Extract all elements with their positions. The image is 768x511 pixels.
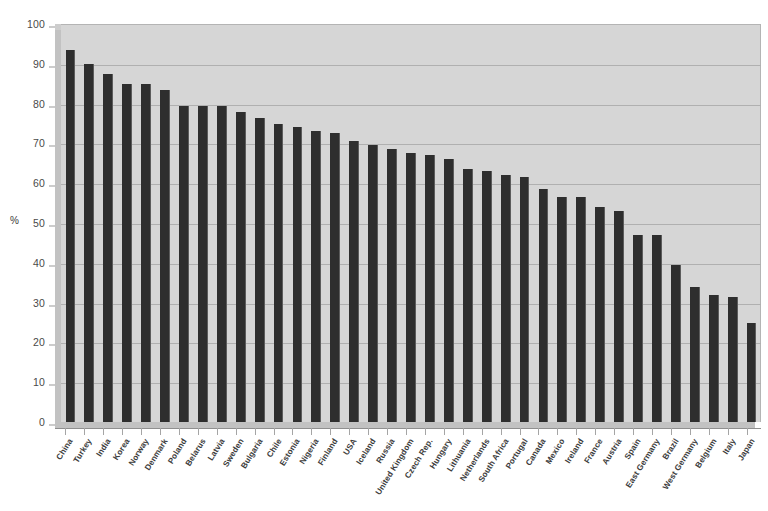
x-axis-tick-mark	[576, 428, 577, 435]
x-axis-tick-label-text: Japan	[736, 437, 756, 462]
x-axis-tick-mark	[292, 428, 293, 435]
x-axis-tick-label: Turkey	[72, 437, 94, 465]
bar	[217, 106, 227, 422]
y-axis-tick-mark	[49, 385, 55, 386]
x-axis-tick-label-text: USA	[342, 437, 359, 457]
x-axis-tick-mark	[274, 428, 275, 435]
x-axis-tick-label: Brazil	[661, 437, 681, 461]
bars-layer	[61, 24, 761, 422]
bar	[198, 106, 208, 422]
y-axis-tick-label: 0	[19, 416, 45, 428]
x-axis-tick-label: Chile	[265, 437, 284, 459]
bar	[66, 50, 76, 422]
x-axis-tick-mark	[614, 428, 615, 435]
y-axis-tick-label: 10	[19, 376, 45, 388]
bar-chart: % 0102030405060708090100 ChinaTurkeyIndi…	[0, 0, 768, 511]
y-axis-tick-mark	[49, 106, 55, 107]
x-axis-tick-mark	[406, 428, 407, 435]
bar	[349, 141, 359, 422]
bar	[444, 159, 454, 422]
y-axis-tick-label: 100	[19, 18, 45, 30]
y-axis-tick-labels: 0102030405060708090100	[5, 0, 45, 511]
x-axis-tick-mark	[747, 428, 748, 435]
x-axis-tick-mark	[520, 428, 521, 435]
bar	[463, 169, 473, 422]
x-axis-tick-mark	[349, 428, 350, 435]
bar	[539, 189, 549, 422]
x-axis-tick-mark	[330, 428, 331, 435]
bar	[274, 124, 284, 423]
y-axis-tick-mark	[49, 66, 55, 67]
x-axis-tick-mark	[255, 428, 256, 435]
bar	[501, 175, 511, 422]
y-axis-tick-label: 30	[19, 297, 45, 309]
bar	[728, 297, 738, 422]
bar	[425, 155, 435, 422]
bar	[387, 149, 397, 422]
bar	[557, 197, 567, 422]
bar	[160, 90, 170, 422]
bar	[255, 118, 265, 422]
y-axis-tick-mark	[49, 146, 55, 147]
x-axis-tick-mark	[728, 428, 729, 435]
x-axis-tick-mark	[709, 428, 710, 435]
x-axis-tick-mark	[557, 428, 558, 435]
y-axis-tick-label: 90	[19, 58, 45, 70]
x-axis-tick-mark	[690, 428, 691, 435]
bar	[652, 235, 662, 422]
x-axis-tick-mark	[198, 428, 199, 435]
y-axis-tick-label: 60	[19, 177, 45, 189]
x-axis-tick-mark	[236, 428, 237, 435]
y-axis-tick-label: 50	[19, 217, 45, 229]
x-axis-tick-label-text: Brazil	[661, 437, 681, 461]
x-axis-tick-mark	[633, 428, 634, 435]
y-axis-tick-label: 70	[19, 137, 45, 149]
y-axis-tick-mark	[49, 425, 55, 426]
bar	[368, 145, 378, 422]
y-axis-tick-mark	[49, 226, 55, 227]
bar	[614, 211, 624, 422]
x-axis-tick-mark	[141, 428, 142, 435]
x-axis-tick-mark	[217, 428, 218, 435]
bar	[633, 235, 643, 422]
y-axis-tick-label: 80	[19, 98, 45, 110]
bar	[709, 295, 719, 422]
bar	[747, 323, 757, 423]
x-axis-tick-mark	[463, 428, 464, 435]
x-axis-tick-mark	[160, 428, 161, 435]
bar	[406, 153, 416, 422]
y-axis-tick-label: 40	[19, 257, 45, 269]
x-axis-tick-label-text: Chile	[265, 437, 284, 459]
x-axis-tick-label-text: India	[95, 437, 113, 458]
bar	[122, 84, 132, 422]
bar	[690, 287, 700, 422]
bar	[482, 171, 492, 422]
x-axis-tick-mark	[65, 428, 66, 435]
x-axis-tick-mark	[103, 428, 104, 435]
bar	[595, 207, 605, 422]
y-axis-tick-label: 20	[19, 336, 45, 348]
x-axis-tick-mark	[482, 428, 483, 435]
x-axis-tick-mark	[84, 428, 85, 435]
x-axis-tick-mark	[595, 428, 596, 435]
bar	[330, 133, 340, 422]
y-axis-tick-mark	[49, 305, 55, 306]
bar	[179, 106, 189, 422]
x-axis-tick-mark	[311, 428, 312, 435]
y-axis-tick-mark	[49, 265, 55, 266]
bar	[520, 177, 530, 422]
y-axis-tick-mark	[49, 186, 55, 187]
x-axis-tick-mark	[387, 428, 388, 435]
bar	[141, 84, 151, 422]
bar	[311, 131, 321, 422]
x-axis-tick-mark	[444, 428, 445, 435]
y-axis-tick-mark	[49, 345, 55, 346]
bar	[84, 64, 94, 422]
x-axis-tick-mark	[122, 428, 123, 435]
bar	[293, 127, 303, 422]
x-axis-tick-label: Japan	[736, 437, 756, 462]
x-axis-tick-mark	[179, 428, 180, 435]
x-axis-tick-mark	[368, 428, 369, 435]
x-axis-tick-mark	[652, 428, 653, 435]
x-axis-tick-mark	[538, 428, 539, 435]
